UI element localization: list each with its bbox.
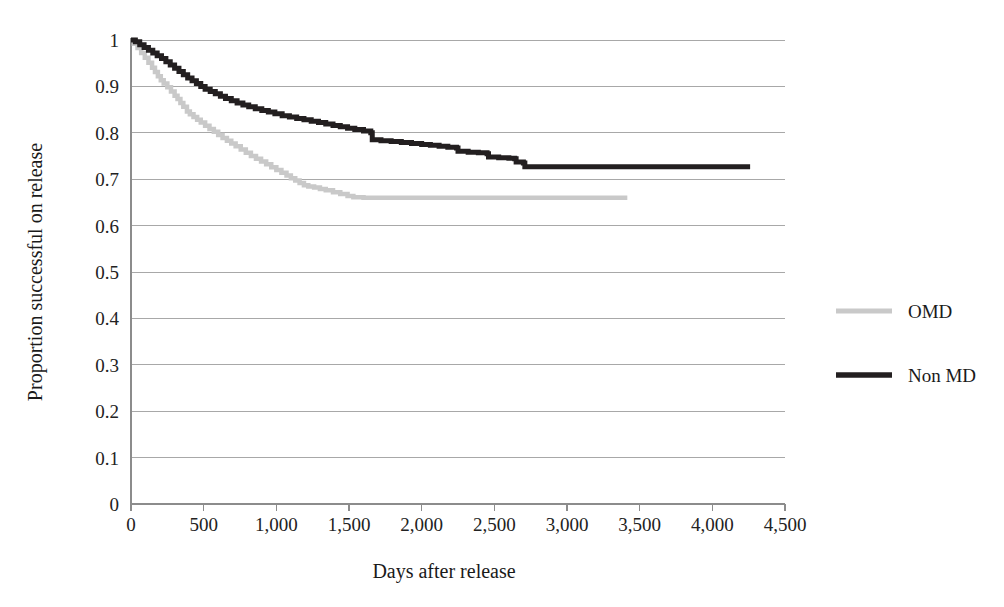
x-tick-label: 2,500	[473, 514, 516, 535]
y-tick-label: 0.4	[95, 308, 119, 329]
x-tick-label: 500	[189, 514, 218, 535]
x-tick-label: 1,000	[255, 514, 298, 535]
y-tick-label: 0.7	[95, 169, 119, 190]
y-tick-label: 0.1	[95, 448, 119, 469]
y-tick-label: 0.8	[95, 123, 119, 144]
y-tick-label: 0.3	[95, 355, 119, 376]
y-tick-label: 0.6	[95, 216, 119, 237]
x-tick-label: 4,500	[764, 514, 807, 535]
x-tick-label: 3,000	[546, 514, 589, 535]
legend-label-non-md: Non MD	[908, 365, 976, 386]
x-tick-label: 1,500	[328, 514, 371, 535]
x-tick-label: 0	[126, 514, 136, 535]
legend-label-omd: OMD	[908, 301, 952, 322]
y-tick-label: 0.9	[95, 76, 119, 97]
y-axis-title: Proportion successful on release	[24, 143, 47, 401]
x-tick-label: 4,000	[691, 514, 734, 535]
y-tick-label: 0.2	[95, 401, 119, 422]
x-tick-label: 2,000	[400, 514, 443, 535]
x-axis-title: Days after release	[372, 560, 515, 583]
survival-curve-chart: 05001,0001,5002,0002,5003,0003,5004,0004…	[0, 0, 1004, 607]
x-tick-label: 3,500	[618, 514, 661, 535]
y-tick-label: 0	[110, 494, 120, 515]
y-tick-label: 1	[110, 30, 120, 51]
chart-figure: 05001,0001,5002,0002,5003,0003,5004,0004…	[0, 0, 1004, 607]
y-tick-label: 0.5	[95, 262, 119, 283]
